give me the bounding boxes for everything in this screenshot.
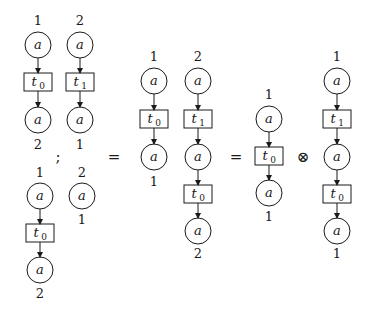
transition-name: t [33,225,39,240]
place-token: a [36,262,44,277]
transition-box [184,110,212,128]
net-middle: 1 a t 0 a 1 2 a t 1 a t 0 a 2 [140,49,212,261]
place-token: a [194,149,202,164]
transition-index: 0 [39,81,45,91]
port-label: 1 [150,49,158,64]
transition-index: 0 [155,118,161,128]
petri-net-diagram: 1 a t 0 a 2 2 a t 1 a 1 ; 1 a t 0 a [0,0,375,314]
place-token: a [76,37,84,52]
port-label: 1 [333,49,341,64]
port-label: 1 [333,246,341,261]
place-token: a [76,112,84,127]
net-right-a: 1 a t 0 a 1 [255,87,283,224]
transition-name: t [262,148,268,163]
transition-name: t [330,186,336,201]
transition-name: t [191,186,197,201]
port-label: 2 [194,246,202,261]
place-token: a [78,188,86,203]
place-token: a [333,149,341,164]
port-label: 2 [194,49,202,64]
transition-box [184,185,212,203]
place-token: a [194,73,202,88]
place-token: a [265,185,273,200]
net-right-b: 1 a t 1 a t 0 a 1 [323,49,351,261]
place-token: a [150,149,158,164]
port-label: 2 [36,286,44,301]
transition-name: t [147,111,153,126]
transition-box [26,224,54,242]
transition-index: 1 [81,81,87,91]
tensor-product-operator: ⊗ [297,148,310,166]
transition-name: t [191,111,197,126]
place-token: a [333,223,341,238]
port-label: 2 [76,13,84,28]
transition-box [323,110,351,128]
port-label: 1 [36,165,44,180]
place-token: a [150,73,158,88]
transition-box [323,185,351,203]
transition-box [66,73,94,91]
transition-box [255,147,283,165]
transition-box [140,110,168,128]
equals-operator: = [108,148,121,166]
transition-index: 0 [41,232,47,242]
port-label: 1 [76,137,84,152]
sequential-composition-operator: ; [55,148,60,166]
place-token: a [265,111,273,126]
port-label: 1 [265,209,273,224]
port-label: 1 [265,87,273,102]
transition-name: t [73,74,79,89]
net-bottom-left: 1 a t 0 a 2 2 a 1 [26,165,95,301]
transition-index: 0 [338,193,344,203]
transition-name: t [31,74,37,89]
transition-name: t [330,111,336,126]
place-token: a [34,37,42,52]
port-label: 2 [34,137,42,152]
port-label: 2 [78,165,86,180]
place-token: a [36,188,44,203]
transition-index: 0 [199,193,205,203]
equals-operator: = [230,148,243,166]
port-label: 1 [150,174,158,189]
port-label: 1 [34,13,42,28]
place-token: a [34,112,42,127]
transition-index: 1 [199,118,205,128]
place-token: a [194,223,202,238]
transition-box [24,73,52,91]
net-top-left: 1 a t 0 a 2 2 a t 1 a 1 [24,13,94,152]
port-label: 1 [78,212,86,227]
transition-index: 1 [338,118,344,128]
place-token: a [333,73,341,88]
transition-index: 0 [270,155,276,165]
